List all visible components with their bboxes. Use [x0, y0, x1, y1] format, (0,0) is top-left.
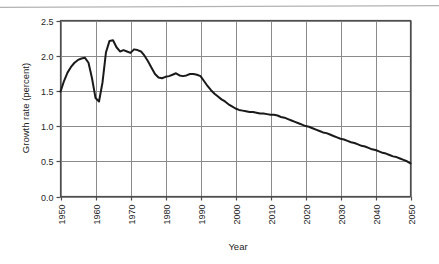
- x-tick-label: 1960: [92, 205, 102, 225]
- x-tick-label: 2020: [302, 205, 312, 225]
- x-tick-label: 2000: [232, 205, 242, 225]
- x-tick-label: 1980: [162, 205, 172, 225]
- y-axis-tick-labels: 0.00.51.01.52.02.5: [41, 17, 54, 203]
- x-axis-title: Year: [228, 241, 247, 252]
- x-tick-label: 1950: [57, 205, 67, 225]
- chart-figure: 1950196019701980199020002010202020302040…: [0, 0, 439, 264]
- tick-marks: [57, 22, 412, 201]
- x-tick-label: 2010: [267, 205, 277, 225]
- y-tick-label: 2.5: [41, 17, 54, 27]
- x-tick-label: 2030: [337, 205, 347, 225]
- x-tick-label: 2040: [372, 205, 382, 225]
- y-axis-title: Growth rate (percent): [20, 63, 31, 153]
- data-series-layer: [61, 40, 411, 163]
- x-tick-label: 1990: [197, 205, 207, 225]
- series-line: [61, 40, 411, 163]
- x-axis-tick-labels: 1950196019701980199020002010202020302040…: [57, 205, 417, 225]
- y-tick-label: 0.0: [41, 193, 54, 203]
- y-tick-label: 1.0: [41, 122, 54, 132]
- x-tick-label: 1970: [127, 205, 137, 225]
- y-tick-label: 0.5: [41, 157, 54, 167]
- x-tick-label: 2050: [407, 205, 417, 225]
- y-tick-label: 2.0: [41, 52, 54, 62]
- y-tick-label: 1.5: [41, 87, 54, 97]
- line-chart: 1950196019701980199020002010202020302040…: [0, 0, 439, 264]
